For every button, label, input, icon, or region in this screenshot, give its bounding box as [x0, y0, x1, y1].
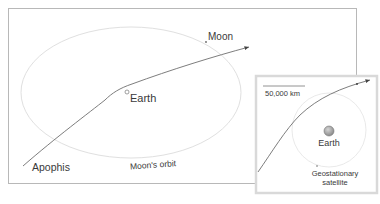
apophis-label: Apophis: [32, 161, 70, 173]
inset-earth: [324, 126, 334, 136]
geostationary-label-line1: Geostationary: [312, 169, 359, 178]
earth-dot: [125, 90, 129, 94]
scale-bar-label: 50,000 km: [265, 89, 300, 98]
geostationary-satellite-dot: [316, 165, 318, 167]
apophis-flyby-diagram: Earth Moon Apophis Moon's orbit 50,000 k…: [0, 0, 380, 204]
moon-dot: [205, 41, 207, 43]
inset-panel: 50,000 km Earth Geostationary satellite: [256, 76, 377, 193]
geostationary-label-line2: satellite: [322, 178, 347, 187]
earth-label: Earth: [130, 92, 156, 104]
inset-apophis-marker: [356, 83, 358, 85]
moon-label: Moon: [208, 31, 233, 42]
inset-earth-label: Earth: [318, 138, 340, 148]
